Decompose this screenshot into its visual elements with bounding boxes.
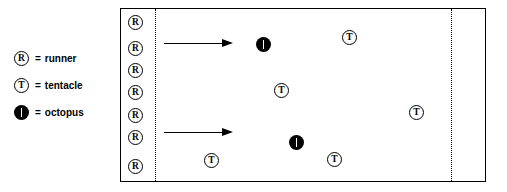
markers-layer: RRRRRRRTTTTT <box>121 9 485 39</box>
legend-equals-runner: = <box>35 54 41 64</box>
tentacle-marker: T <box>327 152 342 167</box>
legend-equals-tentacle: = <box>35 81 41 91</box>
runner-marker-letter: R <box>132 110 139 120</box>
legend-item-runner: R = runner <box>14 48 114 70</box>
tentacle-icon-circle: T <box>14 78 29 93</box>
field-rectangle: RRRRRRRTTTTT <box>120 8 486 182</box>
arrow-top-shaft <box>164 43 223 44</box>
arrow-top <box>164 39 233 48</box>
runner-icon: R <box>14 51 30 67</box>
tentacle-icon-letter: T <box>18 80 24 90</box>
legend-item-tentacle: T = tentacle <box>14 75 114 97</box>
runner-marker-letter: R <box>132 161 139 171</box>
runner-icon-letter: R <box>18 53 25 63</box>
arrow-bottom-head <box>222 128 233 136</box>
runner-marker: R <box>128 159 143 174</box>
tentacle-marker: T <box>342 30 357 45</box>
runner-marker: R <box>128 63 143 78</box>
runner-marker-letter: R <box>132 87 139 97</box>
tentacle-marker-letter: T <box>413 107 419 117</box>
octopus-marker <box>256 37 271 52</box>
arrow-bottom-shaft <box>164 132 223 133</box>
runner-marker: R <box>128 130 143 145</box>
finish-line <box>451 9 452 181</box>
legend-label-octopus: octopus <box>45 108 84 118</box>
runner-marker-letter: R <box>132 17 139 27</box>
legend-label-tentacle: tentacle <box>45 81 83 91</box>
tentacle-marker: T <box>204 153 219 168</box>
tentacle-marker: T <box>274 83 289 98</box>
legend-label-runner: runner <box>45 54 77 64</box>
octopus-icon-circle <box>14 105 29 120</box>
tentacle-marker-letter: T <box>331 154 337 164</box>
runner-marker-letter: R <box>132 43 139 53</box>
tentacle-marker: T <box>409 105 424 120</box>
runner-marker: R <box>128 41 143 56</box>
arrow-bottom <box>164 128 233 137</box>
runner-marker: R <box>128 15 143 30</box>
octopus-icon <box>14 105 30 121</box>
tentacle-marker-letter: T <box>208 155 214 165</box>
runner-marker: R <box>128 108 143 123</box>
tentacle-marker-letter: T <box>346 32 352 42</box>
octopus-marker <box>289 135 304 150</box>
tentacle-icon: T <box>14 78 30 94</box>
figure-container: R = runner T = tentacle = octopus RRRRRR… <box>0 0 507 192</box>
runner-marker: R <box>128 85 143 100</box>
legend-equals-octopus: = <box>35 108 41 118</box>
runner-icon-circle: R <box>14 51 29 66</box>
tentacle-marker-letter: T <box>278 85 284 95</box>
arrow-top-head <box>222 39 233 47</box>
runner-marker-letter: R <box>132 65 139 75</box>
runner-marker-letter: R <box>132 132 139 142</box>
start-line <box>155 9 156 181</box>
legend-item-octopus: = octopus <box>14 102 114 124</box>
legend: R = runner T = tentacle = octopus <box>14 48 114 129</box>
